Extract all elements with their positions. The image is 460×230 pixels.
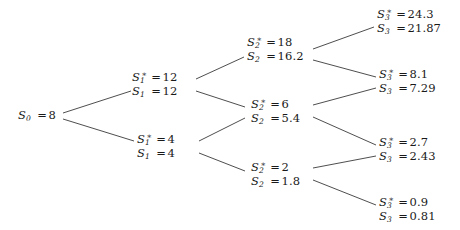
- node-s2-uu: S2∗=18S2 =16.2: [247, 36, 304, 64]
- math-equals: =: [37, 108, 49, 122]
- math-equals: =: [398, 195, 410, 209]
- math-subscript: 1: [145, 152, 150, 161]
- math-superscript-empty-slot: [31, 109, 37, 122]
- node-label-line: S1 =4: [137, 147, 175, 161]
- node-s3-udd: S3∗=2.7S3 =2.43: [379, 136, 436, 164]
- math-value: 0.81: [410, 209, 436, 223]
- node-s1-down: S1∗=4S1 =4: [137, 133, 175, 161]
- math-symbol: S: [379, 195, 387, 209]
- edge-s2dd-s3udd: [313, 156, 376, 168]
- math-superscript-star: ∗: [141, 70, 146, 79]
- math-symbol: S: [137, 132, 145, 146]
- node-label-line: S3 =21.87: [377, 22, 441, 36]
- edge-s2ud-s3uud: [313, 88, 376, 105]
- math-superscript-star: ∗: [260, 97, 265, 106]
- math-value: 2: [282, 160, 289, 174]
- node-s3-uuu: S3∗=24.3S3 =21.87: [377, 8, 441, 36]
- edge-s1up-s2ud: [196, 91, 245, 107]
- math-equals: =: [151, 70, 163, 84]
- math-symbol: S: [379, 135, 387, 149]
- math-superscript-empty-slot: [392, 210, 398, 223]
- math-equals: =: [396, 21, 408, 35]
- math-superscript-star-slot: ∗: [145, 71, 151, 85]
- math-symbol: S: [251, 174, 259, 188]
- math-symbol: S: [132, 70, 140, 84]
- math-superscript-star: ∗: [256, 35, 261, 44]
- math-value: 1.8: [282, 174, 301, 188]
- math-value: 4: [168, 132, 175, 146]
- math-equals: =: [270, 174, 282, 188]
- edge-s2dd-s3ddd: [313, 180, 376, 205]
- math-superscript-empty-slot: [264, 112, 270, 125]
- math-subscript: 3: [387, 155, 392, 164]
- math-value: 0.9: [410, 195, 429, 209]
- edge-s1down-s2dd: [199, 153, 245, 171]
- math-symbol: S: [379, 209, 387, 223]
- math-equals: =: [266, 49, 278, 63]
- node-label-line: S3∗=24.3: [377, 8, 441, 22]
- math-value: 18: [278, 35, 293, 49]
- math-superscript-empty-slot: [392, 82, 398, 95]
- math-value: 16.2: [278, 49, 304, 63]
- math-superscript-empty-slot: [390, 22, 396, 35]
- math-equals: =: [396, 7, 408, 21]
- math-superscript-star-slot: ∗: [392, 196, 398, 210]
- math-subscript: 3: [385, 27, 390, 36]
- math-equals: =: [156, 132, 168, 146]
- math-symbol: S: [132, 84, 140, 98]
- math-subscript: 2: [255, 55, 260, 64]
- math-symbol: S: [379, 149, 387, 163]
- edge-s0-s1up: [63, 91, 131, 113]
- math-equals: =: [398, 135, 410, 149]
- math-symbol: S: [377, 7, 385, 21]
- math-superscript-star-slot: ∗: [264, 161, 270, 175]
- edge-s0-s1down: [63, 119, 134, 141]
- math-equals: =: [270, 111, 282, 125]
- math-symbol: S: [379, 67, 387, 81]
- node-label-line: S2 =5.4: [251, 112, 300, 126]
- math-subscript: 2: [259, 180, 264, 189]
- math-symbol: S: [247, 49, 255, 63]
- math-superscript-empty-slot: [264, 175, 270, 188]
- edge-s2ud-s3udd: [313, 117, 376, 145]
- math-value: 5.4: [282, 111, 301, 125]
- math-equals: =: [398, 209, 410, 223]
- math-symbol: S: [18, 108, 26, 122]
- math-superscript-star: ∗: [388, 195, 393, 204]
- node-label-line: S3 =2.43: [379, 150, 436, 164]
- node-label-line: S3∗=8.1: [379, 68, 436, 82]
- math-value: 8: [49, 108, 56, 122]
- math-subscript: 3: [387, 215, 392, 224]
- math-superscript-star-slot: ∗: [392, 68, 398, 82]
- node-label-line: S2∗=2: [251, 161, 300, 175]
- node-s3-uud: S3∗=8.1S3 =7.29: [379, 68, 436, 96]
- math-symbol: S: [251, 160, 259, 174]
- node-label-line: S2 =16.2: [247, 50, 304, 64]
- node-label-line: S3∗=2.7: [379, 136, 436, 150]
- node-label-line: S0 =8: [18, 109, 56, 123]
- math-value: 4: [168, 146, 175, 160]
- node-s1-up: S1∗=12S1 =12: [132, 71, 177, 99]
- math-equals: =: [156, 146, 168, 160]
- math-equals: =: [266, 35, 278, 49]
- math-superscript-star: ∗: [146, 132, 151, 141]
- math-symbol: S: [137, 146, 145, 160]
- node-label-line: S2 =1.8: [251, 175, 300, 189]
- math-subscript: 2: [259, 117, 264, 126]
- math-superscript-star-slot: ∗: [390, 8, 396, 22]
- math-value: 2.7: [410, 135, 429, 149]
- binomial-tree-figure: S0 =8 S1∗=12S1 =12 S1∗=4S1 =4 S2∗=18S2 =…: [0, 0, 460, 230]
- math-symbol: S: [377, 21, 385, 35]
- math-superscript-empty-slot: [150, 147, 156, 160]
- math-superscript-star: ∗: [386, 7, 391, 16]
- math-equals: =: [398, 67, 410, 81]
- math-superscript-empty-slot: [145, 85, 151, 98]
- node-s3-ddd: S3∗=0.9S3 =0.81: [379, 196, 436, 224]
- math-symbol: S: [251, 111, 259, 125]
- math-value: 8.1: [410, 67, 429, 81]
- node-label-line: S1∗=4: [137, 133, 175, 147]
- math-equals: =: [270, 160, 282, 174]
- math-superscript-star-slot: ∗: [392, 136, 398, 150]
- math-value: 24.3: [408, 7, 434, 21]
- math-value: 12: [163, 70, 178, 84]
